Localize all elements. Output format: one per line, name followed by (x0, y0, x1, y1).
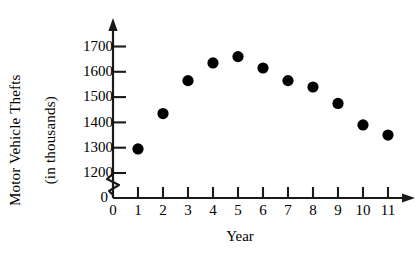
x-tick-label-3: 3 (180, 203, 196, 218)
y-tick-label-1500: 1500 (83, 89, 113, 104)
x-tick-label-1: 1 (130, 203, 146, 218)
x-tick-label-7: 7 (280, 203, 296, 218)
data-point (157, 108, 168, 119)
x-tick-label-9: 9 (330, 203, 346, 218)
data-point (257, 62, 268, 73)
y-tick-label-1700: 1700 (83, 39, 113, 54)
x-tick-label-10: 10 (352, 203, 374, 218)
x-tick-label-11: 11 (378, 203, 398, 218)
x-tick-label-4: 4 (205, 203, 221, 218)
x-axis-ticks (138, 187, 388, 198)
data-point (232, 51, 243, 62)
data-point (132, 143, 143, 154)
axes-group (107, 18, 415, 203)
data-point (182, 75, 193, 86)
y-tick-label-1300: 1300 (83, 140, 113, 155)
data-point (382, 129, 393, 140)
x-tick-label-5: 5 (230, 203, 246, 218)
y-tick-label-1400: 1400 (83, 115, 113, 130)
data-point (207, 57, 218, 68)
data-point-group (132, 51, 393, 155)
x-tick-label-8: 8 (305, 203, 321, 218)
scatter-chart: 1700 1600 1500 1400 1300 1200 0 0 1 2 3 … (0, 0, 417, 257)
x-tick-label-6: 6 (255, 203, 271, 218)
x-axis-arrow-icon (402, 193, 415, 202)
y-axis-ticks (113, 47, 126, 174)
y-axis-arrow-icon (108, 18, 117, 31)
data-point (307, 81, 318, 92)
data-point (332, 98, 343, 109)
x-tick-label-0: 0 (105, 203, 121, 218)
data-point (282, 75, 293, 86)
x-tick-label-2: 2 (155, 203, 171, 218)
data-point (357, 119, 368, 130)
y-tick-label-1600: 1600 (83, 64, 113, 79)
plot-canvas (0, 0, 417, 257)
y-tick-label-1200: 1200 (83, 165, 113, 180)
x-axis-title: Year (180, 228, 300, 245)
